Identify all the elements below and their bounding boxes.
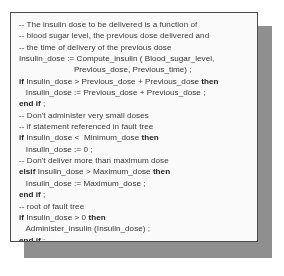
code-line: Previous_dose, Previous_time) ; xyxy=(19,64,255,75)
code-line: end if ; xyxy=(19,98,255,109)
code-line: Insulin_dose := Compute_insulin ( Blood_… xyxy=(19,53,255,64)
code-text: Insulin_dose > 0 xyxy=(24,213,88,222)
code-text: -- The insulin dose to be delivered is a… xyxy=(19,20,197,29)
code-text: Administer_insulin (Insulin_dose) ; xyxy=(19,224,150,233)
code-line: -- root of fault tree xyxy=(19,201,255,212)
code-text: Insulin_dose := Previous_dose + Previous… xyxy=(19,88,205,97)
code-keyword: then xyxy=(201,77,218,86)
code-listing: -- The insulin dose to be delivered is a… xyxy=(19,19,255,242)
code-line: -- The insulin dose to be delivered is a… xyxy=(19,19,255,30)
code-line: Administer_insulin (Insulin_dose) ; xyxy=(19,223,255,234)
code-line: elsif Insulin_dose > Maximum_dose then xyxy=(19,166,255,177)
code-text: Insulin_dose < Minimum_dose xyxy=(24,133,142,142)
code-text: ; xyxy=(41,236,46,242)
code-text: -- root of fault tree xyxy=(19,202,84,211)
code-keyword: end if xyxy=(19,190,41,199)
code-keyword: then xyxy=(142,133,159,142)
screenshot-stage: -- The insulin dose to be delivered is a… xyxy=(0,0,284,276)
code-listing-panel: -- The insulin dose to be delivered is a… xyxy=(10,12,258,242)
code-line: -- if statement referenced in fault tree xyxy=(19,121,255,132)
code-line: Insulin_dose := Maximum_dose ; xyxy=(19,178,255,189)
code-keyword: elsif xyxy=(19,167,35,176)
code-text: -- blood sugar level, the previous dose … xyxy=(19,31,209,40)
code-line: end if ; xyxy=(19,235,255,242)
code-keyword: then xyxy=(153,167,170,176)
code-text: Insulin_dose > Maximum_dose xyxy=(35,167,152,176)
code-line: -- Don't administer very small doses xyxy=(19,110,255,121)
code-line: -- the time of delivery of the previous … xyxy=(19,42,255,53)
code-text: Insulin_dose := Compute_insulin ( Blood_… xyxy=(19,54,214,63)
code-line: Insulin_dose := Previous_dose + Previous… xyxy=(19,87,255,98)
code-text: -- Don't deliver more than maximum dose xyxy=(19,156,169,165)
code-text: Insulin_dose > Previous_dose + Previous_… xyxy=(24,77,201,86)
code-text: ; xyxy=(41,190,46,199)
code-text: Insulin_dose := 0 ; xyxy=(19,145,93,154)
code-keyword: then xyxy=(88,213,105,222)
code-text: Insulin_dose := Maximum_dose ; xyxy=(19,179,146,188)
code-text: ; xyxy=(41,99,46,108)
code-line: -- blood sugar level, the previous dose … xyxy=(19,30,255,41)
code-line: if Insulin_dose > 0 then xyxy=(19,212,255,223)
code-keyword: end if xyxy=(19,236,41,242)
code-keyword: end if xyxy=(19,99,41,108)
code-text: -- Don't administer very small doses xyxy=(19,111,149,120)
code-line: if Insulin_dose < Minimum_dose then xyxy=(19,132,255,143)
code-text: -- if statement referenced in fault tree xyxy=(19,122,153,131)
code-text: Previous_dose, Previous_time) ; xyxy=(19,65,192,74)
code-text: -- the time of delivery of the previous … xyxy=(19,43,171,52)
code-line: Insulin_dose := 0 ; xyxy=(19,144,255,155)
code-line: end if ; xyxy=(19,189,255,200)
code-line: -- Don't deliver more than maximum dose xyxy=(19,155,255,166)
code-line: if Insulin_dose > Previous_dose + Previo… xyxy=(19,76,255,87)
